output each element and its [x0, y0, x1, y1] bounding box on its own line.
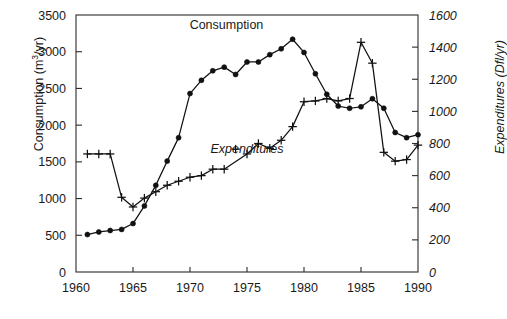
data-point-marker: [142, 203, 147, 208]
y-tick-label-right: 1400: [429, 41, 457, 55]
data-point-marker: [119, 227, 124, 232]
y-tick-label-right: 1200: [429, 73, 457, 87]
x-tick-label: 1985: [347, 281, 375, 295]
x-tick-label: 1980: [290, 281, 318, 295]
data-point-marker: [416, 132, 421, 137]
data-point-marker: [404, 135, 409, 140]
data-point-marker: [267, 52, 272, 57]
y-axis-left-title-text: Consumption (m3/yr): [32, 37, 46, 152]
data-point-marker: [347, 106, 352, 111]
data-point-marker: [222, 65, 227, 70]
data-point-marker: [176, 135, 181, 140]
data-point-marker: [85, 232, 90, 237]
data-point-marker: [381, 106, 386, 111]
y-tick-label-left: 0: [59, 266, 66, 280]
data-point-marker: [131, 221, 136, 226]
data-point-marker: [256, 59, 261, 64]
y-axis-right-title: Expenditures (Dfl/yr): [493, 0, 507, 197]
data-point-marker: [393, 130, 398, 135]
x-tick-label: 1990: [404, 281, 432, 295]
data-point-marker: [199, 78, 204, 83]
data-point-marker: [108, 228, 113, 233]
data-point-marker: [188, 91, 193, 96]
series-label-consumption: Consumption: [190, 18, 264, 32]
data-point-marker: [313, 71, 318, 76]
y-tick-label-right: 800: [429, 137, 450, 151]
y-tick-label-right: 1000: [429, 105, 457, 119]
data-point-marker: [165, 159, 170, 164]
y-tick-label-right: 0: [429, 266, 436, 280]
data-point-marker: [359, 104, 364, 109]
data-point-marker: [233, 72, 238, 77]
x-tick-label: 1970: [176, 281, 204, 295]
data-point-marker: [279, 46, 284, 51]
x-tick-label: 1975: [233, 281, 261, 295]
y-tick-label-right: 1600: [429, 9, 457, 23]
y-tick-label-right: 200: [428, 233, 450, 247]
y-tick-label-left: 500: [45, 229, 66, 243]
data-point-marker: [96, 229, 101, 234]
y-axis-left-title: Consumption (m3/yr): [30, 0, 46, 194]
x-tick-label: 1960: [62, 281, 90, 295]
data-point-marker: [245, 59, 250, 64]
data-point-marker: [153, 183, 158, 188]
y-tick-label-left: 1000: [38, 192, 66, 206]
y-tick-label-right: 400: [429, 201, 450, 215]
data-point-marker: [210, 68, 215, 73]
series-label-expenditures: Expenditures: [211, 142, 284, 156]
x-tick-label: 1965: [119, 281, 147, 295]
data-point-marker: [370, 96, 375, 101]
y-tick-label-right: 600: [429, 169, 450, 183]
data-point-marker: [302, 50, 307, 55]
data-point-marker: [290, 37, 295, 42]
